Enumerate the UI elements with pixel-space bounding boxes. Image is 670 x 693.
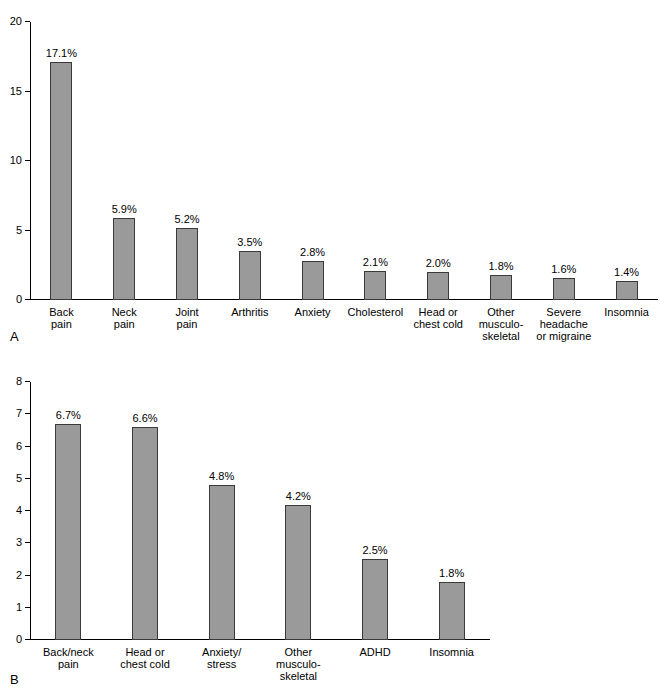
category-label-line: skeletal bbox=[258, 670, 338, 682]
category-label-line: Insomnia bbox=[587, 306, 667, 318]
bar-value-label: 4.8% bbox=[182, 470, 262, 482]
y-tick-label-a-0: 0 bbox=[0, 294, 22, 305]
bar-value-label: 17.1% bbox=[21, 47, 101, 59]
y-tick-b-8 bbox=[25, 381, 30, 382]
y-tick-a-3 bbox=[25, 91, 30, 92]
y-tick-a-2 bbox=[25, 160, 30, 161]
bar-value-label: 5.2% bbox=[147, 213, 227, 225]
bar bbox=[364, 271, 386, 300]
y-tick-b-0 bbox=[25, 639, 30, 640]
y-tick-label-b-8: 8 bbox=[0, 376, 22, 387]
bar bbox=[113, 218, 135, 300]
y-tick-label-b-1: 1 bbox=[0, 602, 22, 613]
category-label-line: Insomnia bbox=[412, 646, 492, 658]
bar bbox=[55, 424, 81, 640]
y-tick-b-3 bbox=[25, 542, 30, 543]
bar-value-label: 4.2% bbox=[258, 490, 338, 502]
bar bbox=[239, 251, 261, 300]
y-tick-b-1 bbox=[25, 607, 30, 608]
category-label: Othermusculo-skeletal bbox=[258, 646, 338, 682]
category-label-line: pain bbox=[28, 658, 108, 670]
bar-value-label: 1.4% bbox=[587, 266, 667, 278]
y-tick-a-1 bbox=[25, 230, 30, 231]
bar bbox=[490, 275, 512, 300]
y-tick-b-4 bbox=[25, 510, 30, 511]
category-label-line: Other bbox=[258, 646, 338, 658]
plot-area-b: 0123456786.7%Back/neckpain6.6%Head orche… bbox=[30, 382, 490, 640]
category-label: Head orchest cold bbox=[105, 646, 185, 670]
category-label: Insomnia bbox=[412, 646, 492, 658]
chart-panel-b: 0123456786.7%Back/neckpain6.6%Head orche… bbox=[0, 360, 670, 693]
category-label-line: musculo- bbox=[258, 658, 338, 670]
y-axis-a bbox=[30, 22, 31, 300]
y-tick-label-b-7: 7 bbox=[0, 408, 22, 419]
y-tick-b-2 bbox=[25, 575, 30, 576]
bar bbox=[132, 427, 158, 640]
y-tick-b-5 bbox=[25, 478, 30, 479]
y-tick-label-a-4: 20 bbox=[0, 16, 22, 27]
y-tick-label-a-3: 15 bbox=[0, 86, 22, 97]
y-tick-label-b-2: 2 bbox=[0, 570, 22, 581]
bar-value-label: 2.5% bbox=[335, 544, 415, 556]
y-tick-b-6 bbox=[25, 446, 30, 447]
bar-value-label: 6.7% bbox=[28, 409, 108, 421]
y-tick-label-a-2: 10 bbox=[0, 155, 22, 166]
bar bbox=[50, 62, 72, 300]
bar bbox=[285, 505, 311, 640]
bar bbox=[209, 485, 235, 640]
category-label-line: Head or bbox=[105, 646, 185, 658]
x-axis-b bbox=[30, 639, 490, 640]
y-tick-label-b-4: 4 bbox=[0, 505, 22, 516]
bar bbox=[176, 228, 198, 300]
category-label: ADHD bbox=[335, 646, 415, 658]
bar-value-label: 6.6% bbox=[105, 412, 185, 424]
category-label-line: chest cold bbox=[105, 658, 185, 670]
category-label-line: Back/neck bbox=[28, 646, 108, 658]
category-label-line: Anxiety/ bbox=[182, 646, 262, 658]
plot-area-a: 0510152017.1%Backpain5.9%Neckpain5.2%Joi… bbox=[30, 22, 658, 300]
bar bbox=[302, 261, 324, 300]
y-tick-label-b-3: 3 bbox=[0, 537, 22, 548]
category-label: Back/neckpain bbox=[28, 646, 108, 670]
bar bbox=[427, 272, 449, 300]
y-tick-label-b-6: 6 bbox=[0, 441, 22, 452]
y-tick-label-b-5: 5 bbox=[0, 473, 22, 484]
bar bbox=[553, 278, 575, 300]
panel-letter-a: A bbox=[10, 330, 19, 343]
category-label-line: headache bbox=[524, 318, 604, 330]
y-tick-label-a-1: 5 bbox=[0, 225, 22, 236]
category-label-line: ADHD bbox=[335, 646, 415, 658]
category-label-line: or migraine bbox=[524, 330, 604, 342]
y-tick-label-b-0: 0 bbox=[0, 634, 22, 645]
chart-panel-a: 0510152017.1%Backpain5.9%Neckpain5.2%Joi… bbox=[0, 0, 670, 360]
category-label-line: stress bbox=[182, 658, 262, 670]
panel-letter-b: B bbox=[10, 673, 19, 686]
bar bbox=[616, 281, 638, 300]
bar-value-label: 1.8% bbox=[412, 567, 492, 579]
bar bbox=[439, 582, 465, 640]
y-tick-a-0 bbox=[25, 299, 30, 300]
category-label: Anxiety/stress bbox=[182, 646, 262, 670]
category-label: Insomnia bbox=[587, 306, 667, 318]
y-tick-a-4 bbox=[25, 21, 30, 22]
bar bbox=[362, 559, 388, 640]
category-label-line: pain bbox=[147, 318, 227, 330]
